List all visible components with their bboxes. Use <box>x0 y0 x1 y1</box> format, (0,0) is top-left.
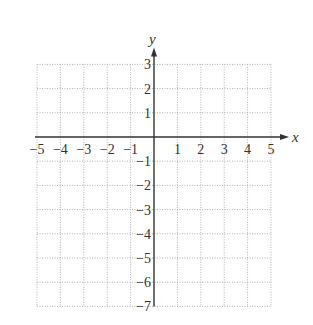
x-tick-label: 1 <box>174 142 181 157</box>
x-axis-label: x <box>291 129 299 145</box>
y-axis-label: y <box>147 31 156 47</box>
y-tick-label: −4 <box>136 227 151 242</box>
x-tick-label: −2 <box>100 142 115 157</box>
y-tick-label: −3 <box>136 203 151 218</box>
axes <box>35 47 289 306</box>
x-tick-label: 5 <box>268 142 275 157</box>
x-tick-label: 4 <box>244 142 251 157</box>
x-axis-arrow-icon <box>280 134 289 140</box>
x-tick-label: −3 <box>76 142 91 157</box>
y-tick-label: 3 <box>144 57 151 72</box>
y-tick-label: −7 <box>136 299 151 314</box>
y-tick-label: 1 <box>144 106 151 121</box>
y-axis-arrow-icon <box>151 47 157 56</box>
x-tick-label: −5 <box>30 142 45 157</box>
coordinate-grid: −5−4−3−2−112345321−1−2−3−4−5−6−7 x y <box>0 0 313 325</box>
x-tick-label: 2 <box>197 142 204 157</box>
y-tick-label: −1 <box>136 154 151 169</box>
y-tick-label: 2 <box>144 82 151 97</box>
y-tick-label: −2 <box>136 178 151 193</box>
x-tick-label: 3 <box>221 142 228 157</box>
x-tick-label: −4 <box>53 142 68 157</box>
y-tick-label: −5 <box>136 251 151 266</box>
y-tick-label: −6 <box>136 275 151 290</box>
